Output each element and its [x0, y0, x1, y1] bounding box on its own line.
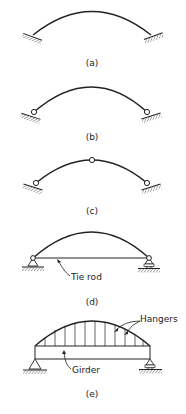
arrowhead-icon: [114, 328, 118, 332]
hinge-icon: [31, 256, 36, 261]
arch-types-diagram: (a) (b) (c): [0, 0, 186, 414]
panel-d-tied-arch: Tie rod (d): [22, 232, 160, 307]
hinged-support-left: [22, 184, 42, 194]
panel-b-two-hinged-arch: (b): [20, 87, 162, 142]
caption-d: (d): [86, 297, 99, 307]
hinged-support-right: [141, 184, 161, 194]
tie-rod-label: Tie rod: [70, 272, 102, 282]
hinge-icon: [31, 109, 36, 114]
hinge-icon: [147, 256, 152, 261]
arrowhead-icon: [57, 259, 61, 263]
arch-rib: [36, 160, 147, 183]
hinged-support-left: [20, 113, 40, 123]
fixed-support-left: [22, 33, 42, 44]
fixed-support-right: [144, 33, 164, 44]
panel-c-three-hinged-arch: (c): [22, 157, 162, 216]
panel-e-hanger-arch: Hangers Girder (e): [23, 314, 178, 399]
hinge-icon: [144, 180, 149, 185]
caption-b: (b): [86, 132, 99, 142]
arrowhead-icon: [62, 350, 66, 354]
girder: [35, 346, 150, 359]
caption-a: (a): [86, 58, 99, 68]
hinged-support-right: [141, 113, 161, 123]
arch-rib: [33, 12, 151, 36]
girder-label: Girder: [72, 365, 100, 375]
hinge-icon: [144, 109, 149, 114]
hinge-icon: [33, 180, 38, 185]
arch-rib: [35, 321, 150, 346]
arrowhead-icon: [124, 331, 128, 335]
hangers-label: Hangers: [140, 314, 178, 324]
roller-support-right: [139, 359, 162, 374]
arch-rib: [34, 87, 147, 112]
panel-a-fixed-arch: (a): [22, 12, 165, 69]
caption-e: (e): [86, 389, 99, 399]
crown-hinge-icon: [89, 157, 94, 162]
hangers: [45, 321, 143, 346]
caption-c: (c): [86, 206, 98, 216]
pin-support-left: [23, 359, 47, 374]
arch-rib: [33, 232, 149, 258]
girder-leader: [64, 352, 71, 369]
